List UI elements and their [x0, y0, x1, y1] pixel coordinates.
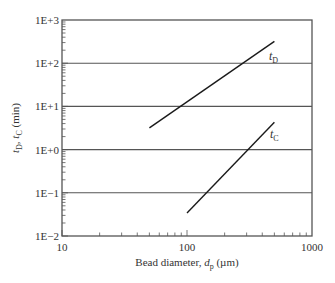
series-line-tC [187, 122, 274, 213]
y-tick-label: 1E−1 [35, 187, 59, 199]
y-tick-label: 1E+1 [35, 100, 59, 112]
y-tick-label: 1E+3 [35, 14, 59, 26]
gridlines [62, 63, 312, 193]
series-line-tD [149, 41, 274, 127]
x-tick-label: 10 [57, 241, 69, 253]
y-tick-label: 1E+2 [35, 57, 59, 69]
y-tick-label: 1E+0 [35, 144, 59, 156]
data-series [149, 41, 274, 213]
chart: 1E−21E−11E+01E+11E+21E+3 101001000 Bead … [0, 0, 335, 283]
y-axis-title: tD, tC (min) [9, 103, 24, 153]
series-label-tC: tC [270, 127, 279, 143]
plot-frame [62, 20, 312, 236]
y-tick-label: 1E−2 [35, 230, 59, 242]
series-label-tD: tD [269, 49, 278, 65]
x-tick-labels: 101001000 [57, 241, 324, 253]
x-axis-title: Bead diameter, dp (µm) [135, 256, 239, 271]
x-tick-label: 100 [179, 241, 196, 253]
x-tick-label: 1000 [301, 241, 324, 253]
y-tick-labels: 1E−21E−11E+01E+11E+21E+3 [35, 14, 59, 242]
